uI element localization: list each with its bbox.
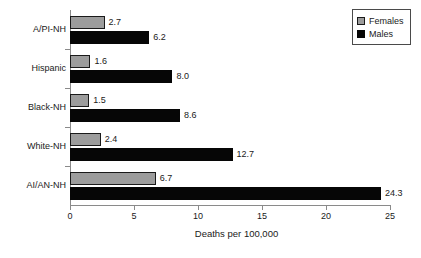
x-axis-tick-label: 0 [67, 211, 72, 221]
bar-value-label: 12.7 [237, 149, 255, 159]
bar-value-label: 1.6 [94, 56, 107, 66]
x-axis-title: Deaths per 100,000 [0, 228, 421, 239]
x-axis-tick-label: 20 [321, 211, 331, 221]
y-axis-category-label: White-NH [27, 141, 66, 151]
x-axis-title-text: Deaths per 100,000 [195, 228, 278, 239]
x-axis-tick [326, 206, 327, 210]
bar-value-label: 1.5 [93, 95, 106, 105]
bar-females [70, 172, 156, 185]
legend-swatch-males-icon [357, 30, 365, 38]
bar-males [70, 109, 180, 122]
bar-males [70, 31, 149, 44]
x-axis-tick-label: 25 [385, 211, 395, 221]
x-axis-tick-label: 10 [193, 211, 203, 221]
legend-item-females[interactable]: Females [357, 14, 404, 27]
bar-value-label: 6.2 [153, 32, 166, 42]
x-axis-tick [262, 206, 263, 210]
legend-item-males[interactable]: Males [357, 27, 404, 40]
legend-label-females: Females [369, 16, 404, 26]
legend: Females Males [352, 9, 411, 45]
bar-males [70, 148, 233, 161]
bar-value-label: 8.6 [184, 110, 197, 120]
x-axis-tick [134, 206, 135, 210]
x-axis-tick [198, 206, 199, 210]
bar-males [70, 70, 172, 83]
legend-label-males: Males [369, 29, 393, 39]
bar-females [70, 133, 101, 146]
bar-males [70, 187, 381, 200]
bar-females [70, 16, 105, 29]
x-axis-tick-label: 5 [131, 211, 136, 221]
bar-chart: A/PI-NHHispanicBlack-NHWhite-NHAI/AN-NH … [0, 0, 421, 258]
y-axis-tick [65, 49, 70, 50]
x-axis-tick-label: 15 [257, 211, 267, 221]
bar-value-label: 6.7 [160, 173, 173, 183]
legend-swatch-females-icon [357, 17, 365, 25]
y-axis-category-label: Black-NH [28, 102, 66, 112]
x-axis-tick [390, 206, 391, 210]
bar-value-label: 2.7 [109, 17, 122, 27]
bar-value-label: 24.3 [385, 188, 403, 198]
y-axis-category-label: AI/AN-NH [26, 180, 66, 190]
y-axis-category-label: Hispanic [31, 63, 66, 73]
x-axis-line [70, 205, 391, 206]
bar-females [70, 55, 90, 68]
y-axis-tick [65, 166, 70, 167]
y-axis-category-label: A/PI-NH [33, 24, 66, 34]
bar-value-label: 2.4 [105, 134, 118, 144]
y-axis-tick [65, 88, 70, 89]
bar-value-label: 8.0 [176, 71, 189, 81]
y-axis-tick [65, 127, 70, 128]
x-axis-tick [70, 206, 71, 210]
bar-females [70, 94, 89, 107]
